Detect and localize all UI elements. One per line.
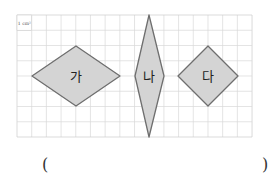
shape-1: 가 <box>32 46 120 106</box>
unit-square-label: 1 cm² <box>17 15 32 30</box>
answer-blank[interactable] <box>56 156 256 176</box>
shape-3: 다 <box>178 46 238 106</box>
answer-open-paren: ( <box>42 157 48 173</box>
grid-figure: 1 cm² 가나다 <box>0 0 271 182</box>
shape-label: 나 <box>143 69 155 84</box>
shape-label: 가 <box>70 69 82 84</box>
shape-label: 다 <box>202 69 214 84</box>
shape-2: 나 <box>135 15 164 137</box>
rhombus-shapes: 가나다 <box>32 15 238 137</box>
answer-close-paren: ) <box>262 157 268 173</box>
svg-text:1 cm²: 1 cm² <box>18 21 31 26</box>
